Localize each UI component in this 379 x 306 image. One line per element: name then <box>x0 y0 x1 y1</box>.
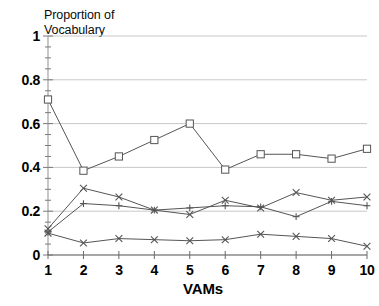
marker-square <box>222 166 229 173</box>
y-tick-label: 0.4 <box>0 159 40 175</box>
x-tick-label: 8 <box>292 262 300 278</box>
marker-cross <box>80 185 87 192</box>
marker-plus <box>115 202 122 209</box>
x-tick-label: 1 <box>44 262 52 278</box>
marker-cross <box>115 194 122 201</box>
y-tick-label: 0.6 <box>0 116 40 132</box>
x-axis-title: VAMs <box>183 280 223 297</box>
marker-square <box>328 155 335 162</box>
x-tick-label: 2 <box>80 262 88 278</box>
series-line-series-cross-lower <box>48 233 367 246</box>
marker-square <box>80 167 87 174</box>
y-tick-label: 0.8 <box>0 72 40 88</box>
x-tick-label: 3 <box>115 262 123 278</box>
marker-square <box>257 151 264 158</box>
plot-area <box>0 0 379 306</box>
marker-plus <box>293 213 300 220</box>
marker-cross <box>364 243 371 250</box>
x-tick-label: 10 <box>360 262 375 278</box>
x-tick-label: 9 <box>328 262 336 278</box>
x-tick-label: 6 <box>221 262 229 278</box>
marker-cross <box>293 189 300 196</box>
marker-square <box>293 151 300 158</box>
y-tick-label: 1 <box>0 28 40 44</box>
series-line-series-plus-middle <box>48 201 367 232</box>
marker-square <box>186 120 193 127</box>
marker-plus <box>328 198 335 205</box>
x-tick-label: 7 <box>257 262 265 278</box>
x-tick-label: 5 <box>186 262 194 278</box>
marker-square <box>151 136 158 143</box>
marker-plus <box>186 205 193 212</box>
y-tick-label: 0 <box>0 247 40 263</box>
marker-square <box>115 153 122 160</box>
marker-square <box>363 145 370 152</box>
marker-plus <box>257 203 264 210</box>
x-tick-label: 4 <box>151 262 159 278</box>
y-tick-label: 0.2 <box>0 203 40 219</box>
marker-square <box>44 96 51 103</box>
marker-plus <box>364 202 371 209</box>
series-line-series-square <box>48 100 367 171</box>
chart-container: Proportion of Vocabulary 00.20.40.60.81 … <box>0 0 379 306</box>
series-line-series-cross-upper <box>48 188 367 229</box>
